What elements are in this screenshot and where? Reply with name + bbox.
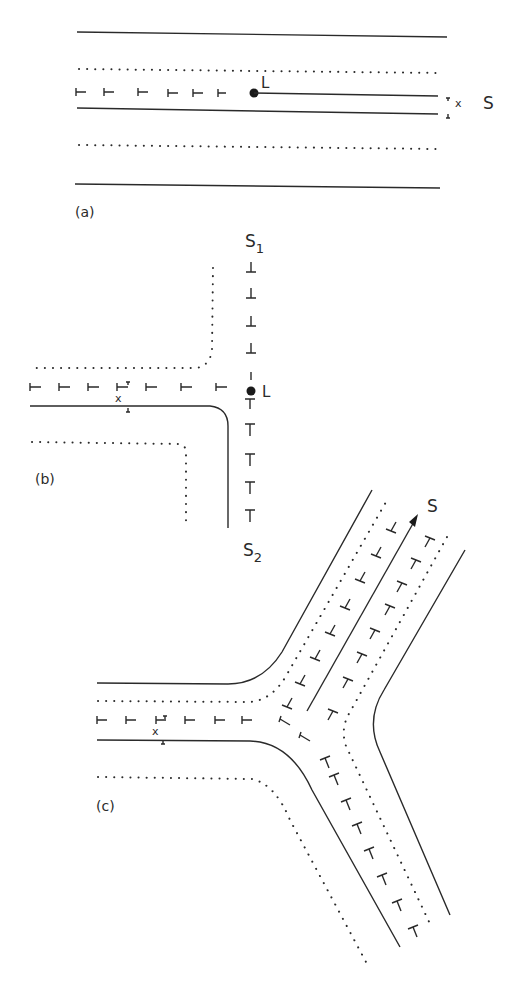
dislocation-symbols-c-left (97, 716, 252, 724)
marker-x: x (455, 97, 462, 110)
node-label-L-b: L (262, 383, 271, 401)
dislocation-symbols-b-bottom (245, 399, 255, 522)
arrow-head-icon (409, 514, 418, 527)
dislocation-symbols-c-lower (320, 756, 418, 937)
panel-label-c: (c) (96, 798, 115, 814)
node-dot-b (247, 387, 256, 396)
dislocation-symbols-c-upper-right (328, 536, 435, 720)
node-label-L: L (261, 74, 270, 92)
panel-a: L x S (a) (75, 32, 494, 220)
panel-c: S x (96, 490, 465, 962)
arrow-label-S: S (427, 496, 438, 516)
marker-x-c: x (152, 725, 159, 738)
panel-b: S1 x L (30, 231, 271, 565)
panel-label-a: (a) (75, 204, 95, 220)
side-label-S: S (483, 93, 494, 113)
dislocation-diagram: L x S (a) S1 (0, 0, 517, 983)
panel-label-b: (b) (35, 471, 55, 487)
dislocation-symbols-b-top (246, 262, 256, 380)
marker-x-b: x (115, 392, 122, 405)
bottom-label-S2: S2 (243, 540, 262, 565)
top-label-S1: S1 (245, 231, 264, 256)
dislocation-symbols-a (76, 88, 226, 97)
